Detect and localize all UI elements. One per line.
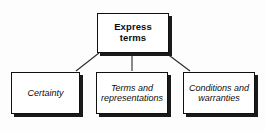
node-conditions-and-warranties[interactable]: Conditions and warranties (183, 72, 255, 114)
node-terms-and-representations[interactable]: Terms and representations (96, 72, 168, 114)
node-certainty[interactable]: Certainty (11, 72, 80, 114)
node-certainty-label: Certainty (24, 88, 66, 98)
node-express-terms-label: Express terms (98, 22, 168, 44)
node-express-terms[interactable]: Express terms (97, 13, 169, 53)
connector-root-to-conditions (166, 53, 190, 71)
connector-root-to-certainty (76, 53, 99, 71)
express-terms-diagram: Express terms Certainty Terms and repres… (0, 0, 266, 131)
node-terms-and-representations-label: Terms and representations (97, 83, 167, 104)
node-conditions-and-warranties-label: Conditions and warranties (184, 83, 254, 104)
